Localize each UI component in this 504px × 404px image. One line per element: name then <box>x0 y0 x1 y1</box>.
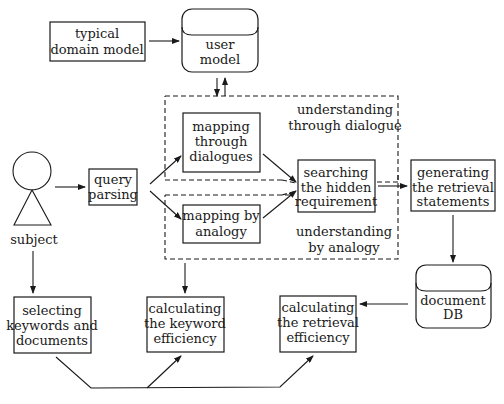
svg-text:model: model <box>200 52 240 67</box>
group-label-dialogue-line1: understanding <box>297 102 393 117</box>
actor-head-icon <box>13 152 51 190</box>
edge-selecting-to-keyword-efficiency <box>147 356 181 388</box>
edge-selecting-to-retrieval-efficiency <box>56 356 313 388</box>
group-label-analogy-line2: by analogy <box>308 240 380 255</box>
node-query-parsing: query parsing <box>88 169 138 205</box>
node-mapping-through-dialogues: mapping through dialogues <box>183 113 260 172</box>
svg-text:efficiency: efficiency <box>286 330 350 345</box>
svg-text:selecting: selecting <box>22 303 82 318</box>
node-mapping-by-analogy: mapping by analogy <box>182 205 260 243</box>
svg-text:user: user <box>206 37 236 52</box>
svg-text:mapping: mapping <box>192 119 250 134</box>
svg-text:documents: documents <box>16 333 88 348</box>
svg-text:the retrieval: the retrieval <box>277 315 359 330</box>
svg-text:statements: statements <box>417 194 490 209</box>
svg-text:parsing: parsing <box>88 187 138 202</box>
svg-text:generating: generating <box>417 165 489 180</box>
node-searching-hidden-requirement: searching the hidden requirement <box>295 160 378 212</box>
svg-text:the hidden: the hidden <box>301 180 372 195</box>
svg-text:typical: typical <box>75 26 119 41</box>
svg-text:analogy: analogy <box>195 224 247 239</box>
node-selecting-keywords-documents: selecting keywords and documents <box>6 297 98 353</box>
node-generating-retrieval-statements: generating the retrieval statements <box>411 160 495 211</box>
actor-body-icon <box>14 190 51 225</box>
node-calculating-keyword-efficiency: calculating the keyword efficiency <box>144 297 226 352</box>
flow-diagram: understanding through dialogue understan… <box>0 0 504 404</box>
svg-text:the keyword: the keyword <box>144 316 226 331</box>
svg-text:subject: subject <box>10 232 58 247</box>
svg-text:through: through <box>195 134 248 149</box>
group-label-analogy-line1: understanding <box>296 224 392 239</box>
svg-text:keywords and: keywords and <box>6 318 98 333</box>
node-typical-domain-model: typical domain model <box>50 22 145 61</box>
node-calculating-retrieval-efficiency: calculating the retrieval efficiency <box>277 296 359 352</box>
edge-dialogues-to-searching <box>263 154 296 182</box>
svg-text:efficiency: efficiency <box>153 331 217 346</box>
svg-text:mapping by: mapping by <box>182 208 260 223</box>
svg-text:DB: DB <box>443 307 463 322</box>
svg-text:dialogues: dialogues <box>189 149 252 164</box>
node-user-model-database: user model <box>182 9 258 72</box>
svg-text:requirement: requirement <box>295 194 378 209</box>
svg-text:domain model: domain model <box>50 42 143 57</box>
group-label-dialogue-line2: through dialogue <box>288 118 402 133</box>
svg-text:document: document <box>420 293 486 308</box>
svg-text:calculating: calculating <box>149 301 222 316</box>
svg-text:calculating: calculating <box>282 300 355 315</box>
svg-text:searching: searching <box>304 165 369 180</box>
node-subject-actor: subject <box>10 152 58 247</box>
node-document-db-database: document DB <box>416 265 491 328</box>
svg-text:query: query <box>94 172 133 187</box>
svg-text:the retrieval: the retrieval <box>412 180 494 195</box>
